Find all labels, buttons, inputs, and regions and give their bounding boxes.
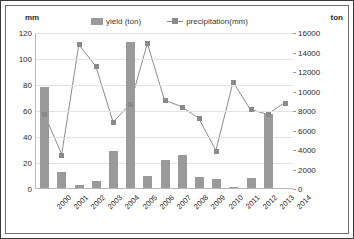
data-point-2011 (231, 80, 236, 85)
plot-area: 0204060801001200200040006000800010000120… (35, 33, 293, 189)
data-point-2014 (283, 101, 288, 106)
right-axis-unit-label: ton (331, 13, 343, 22)
legend-label-yield: yield (ton) (106, 17, 141, 26)
bar-2005 (126, 42, 135, 188)
data-point-2002 (77, 42, 82, 47)
data-point-2006 (145, 41, 150, 46)
data-point-2003 (94, 64, 99, 69)
y2-axis-tick-label: 0 (298, 185, 302, 194)
legend-item-precipitation: precipitation(mm) (167, 17, 248, 26)
y2-axis-tick (293, 150, 296, 151)
y2-axis-tick-label: 12000 (298, 68, 320, 77)
legend-item-yield: yield (ton) (91, 17, 141, 26)
bar-2008 (178, 155, 187, 188)
y2-axis-tick (293, 170, 296, 171)
y2-axis-tick-label: 2000 (298, 165, 316, 174)
y2-axis-tick (293, 111, 296, 112)
line-marker-icon (167, 18, 183, 25)
data-point-2009 (197, 116, 202, 121)
y-axis-tick-label: 20 (4, 159, 32, 168)
data-point-2013 (266, 112, 271, 117)
data-point-2012 (249, 107, 254, 112)
y-axis-tick-label: 40 (4, 133, 32, 142)
gridline (36, 111, 293, 112)
y2-axis-tick-label: 10000 (298, 87, 320, 96)
y-axis-tick-label: 60 (4, 107, 32, 116)
y2-axis-tick (293, 189, 296, 190)
gridline (36, 59, 293, 60)
legend-label-precipitation: precipitation(mm) (186, 17, 248, 26)
data-point-2010 (214, 149, 219, 154)
y2-axis-tick (293, 33, 296, 34)
y-axis-tick-label: 80 (4, 81, 32, 90)
bar-2002 (75, 185, 84, 188)
y-axis-tick-label: 100 (4, 55, 32, 64)
data-point-2001 (59, 153, 64, 158)
bar-2013 (264, 114, 273, 188)
y2-axis-tick (293, 131, 296, 132)
bar-2006 (143, 176, 152, 188)
bar-2009 (195, 177, 204, 188)
bar-2007 (161, 160, 170, 188)
chart-screenshot: mm ton yield (ton) precipitation(mm) 020… (0, 0, 354, 239)
y-axis-tick-label: 120 (4, 29, 32, 38)
gridline (36, 33, 293, 34)
bar-2003 (92, 181, 101, 188)
data-point-2004 (111, 120, 116, 125)
y2-axis-tick (293, 72, 296, 73)
bar-2000 (40, 87, 49, 188)
bar-2001 (57, 172, 66, 188)
data-point-2007 (163, 98, 168, 103)
y2-axis-tick (293, 53, 296, 54)
left-axis-unit-label: mm (25, 13, 39, 22)
y2-axis-tick-label: 16000 (298, 29, 320, 38)
data-point-2008 (180, 105, 185, 110)
y-axis-tick-label: 0 (4, 185, 32, 194)
gridline (36, 137, 293, 138)
chart-legend: yield (ton) precipitation(mm) (91, 15, 271, 27)
data-point-2000 (42, 112, 47, 117)
gridline (36, 85, 293, 86)
y2-axis-tick-label: 14000 (298, 48, 320, 57)
data-point-2005 (128, 102, 133, 107)
y2-axis-tick (293, 92, 296, 93)
y2-axis-tick-label: 4000 (298, 146, 316, 155)
bar-swatch-icon (91, 18, 103, 25)
bar-2011 (229, 187, 238, 188)
y2-axis-tick-label: 8000 (298, 107, 316, 116)
y2-axis-tick-label: 6000 (298, 126, 316, 135)
bar-2004 (109, 151, 118, 188)
bar-2012 (247, 178, 256, 188)
bar-2010 (212, 179, 221, 188)
